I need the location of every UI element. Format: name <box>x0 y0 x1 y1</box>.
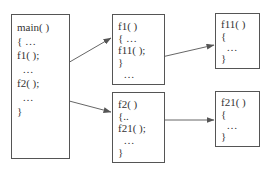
f21-line-3: } <box>221 129 226 143</box>
main-line-3: … <box>17 62 34 76</box>
f11-line-3: } <box>221 51 226 65</box>
main-line-4: f2( ); <box>17 76 39 90</box>
main-line-6: } <box>17 104 22 118</box>
main-line-5: … <box>17 90 34 104</box>
main-line-0: main( ) <box>17 20 49 34</box>
main-line-1: { … <box>17 34 36 48</box>
f2-line-4: } <box>118 145 123 159</box>
f1-line-4: … <box>118 67 135 81</box>
main-line-2: f1( ); <box>17 48 39 62</box>
